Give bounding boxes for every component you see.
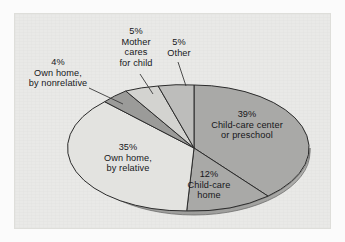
pie-label-name-child-care-home-line1: Child-care xyxy=(176,180,242,191)
pie-label-name-child-care-center-line2: or preschool xyxy=(193,130,301,141)
leader-line-other xyxy=(178,62,186,86)
pie-chart-figure: 4% Own home, by nonrelative 5% Mother ca… xyxy=(0,0,345,242)
pie-label-name-other-line1: Other xyxy=(157,48,201,59)
pie-label-percent-own-home-by-relative: 35% xyxy=(88,142,168,153)
pie-label-percent-own-home-by-nonrelative: 4% xyxy=(18,57,98,68)
pie-label-own-home-by-relative: 35% Own home, by relative xyxy=(88,142,168,174)
pie-label-name-own-home-by-relative-line1: Own home, xyxy=(88,153,168,164)
pie-label-percent-other: 5% xyxy=(157,37,201,48)
pie-label-name-mother-cares-for-child-line3: for child xyxy=(105,58,167,69)
pie-label-name-own-home-by-relative-line2: by relative xyxy=(88,163,168,174)
pie-label-child-care-center: 39% Child-care center or preschool xyxy=(193,109,301,141)
pie-label-name-own-home-by-nonrelative-line1: Own home, xyxy=(18,68,98,79)
pie-label-percent-mother-cares-for-child: 5% xyxy=(105,26,167,37)
pie-label-name-child-care-home-line2: home xyxy=(176,190,242,201)
pie-label-other: 5% Other xyxy=(157,37,201,58)
pie-label-name-own-home-by-nonrelative-line2: by nonrelative xyxy=(18,78,98,89)
pie-label-name-child-care-center-line1: Child-care center xyxy=(193,120,301,131)
pie-label-percent-child-care-home: 12% xyxy=(176,169,242,180)
pie-label-own-home-by-nonrelative: 4% Own home, by nonrelative xyxy=(18,57,98,89)
pie-label-child-care-home: 12% Child-care home xyxy=(176,169,242,201)
pie-label-percent-child-care-center: 39% xyxy=(193,109,301,120)
